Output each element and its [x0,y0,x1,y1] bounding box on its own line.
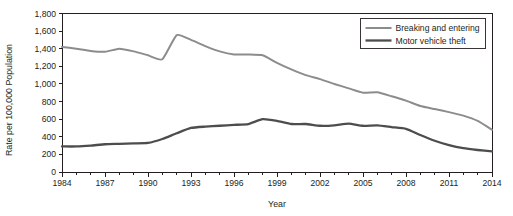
y-tick-label: 400 [42,132,57,142]
chart-legend: Breaking and enteringMotor vehicle theft [361,19,486,49]
x-tick-label: 2008 [396,178,415,188]
y-tick-label: 1,000 [34,79,56,89]
x-tick-label: 2011 [440,178,459,188]
x-tick-label: 1999 [267,178,286,188]
y-tick-label: 1,200 [34,61,56,71]
x-tick-label: 1996 [224,178,243,188]
y-axis-ticks [59,14,63,173]
chart-figure: 02004006008001,0001,2001,4001,6001,800 1… [0,0,513,216]
y-tick-label: 1,800 [34,9,56,19]
x-tick-label: 2005 [353,178,372,188]
x-axis-ticks [62,172,492,177]
y-tick-label: 600 [42,114,57,124]
y-tick-label: 1,400 [34,44,56,54]
series-line-2 [62,119,492,151]
x-tick-label: 1984 [52,178,71,188]
y-axis-tick-labels: 02004006008001,0001,2001,4001,6001,800 [34,9,56,178]
legend-label-1: Breaking and entering [396,23,480,33]
legend-label-2: Motor vehicle theft [396,36,467,46]
data-series-group [62,35,492,152]
y-axis-title: Rate per 100,000 Population [4,44,14,156]
x-tick-label: 2014 [482,178,501,188]
x-axis-tick-labels: 1984198719901993199619992002200520082011… [52,178,501,188]
y-tick-label: 0 [51,167,56,177]
y-tick-label: 800 [42,97,57,107]
x-tick-label: 1990 [138,178,157,188]
y-tick-label: 1,600 [34,26,56,36]
y-tick-label: 200 [42,149,57,159]
x-tick-label: 1987 [95,178,114,188]
series-line-1 [62,35,492,130]
x-axis-title: Year [268,199,286,209]
line-chart: 02004006008001,0001,2001,4001,6001,800 1… [0,0,513,216]
x-tick-label: 2002 [310,178,329,188]
x-tick-label: 1993 [181,178,200,188]
